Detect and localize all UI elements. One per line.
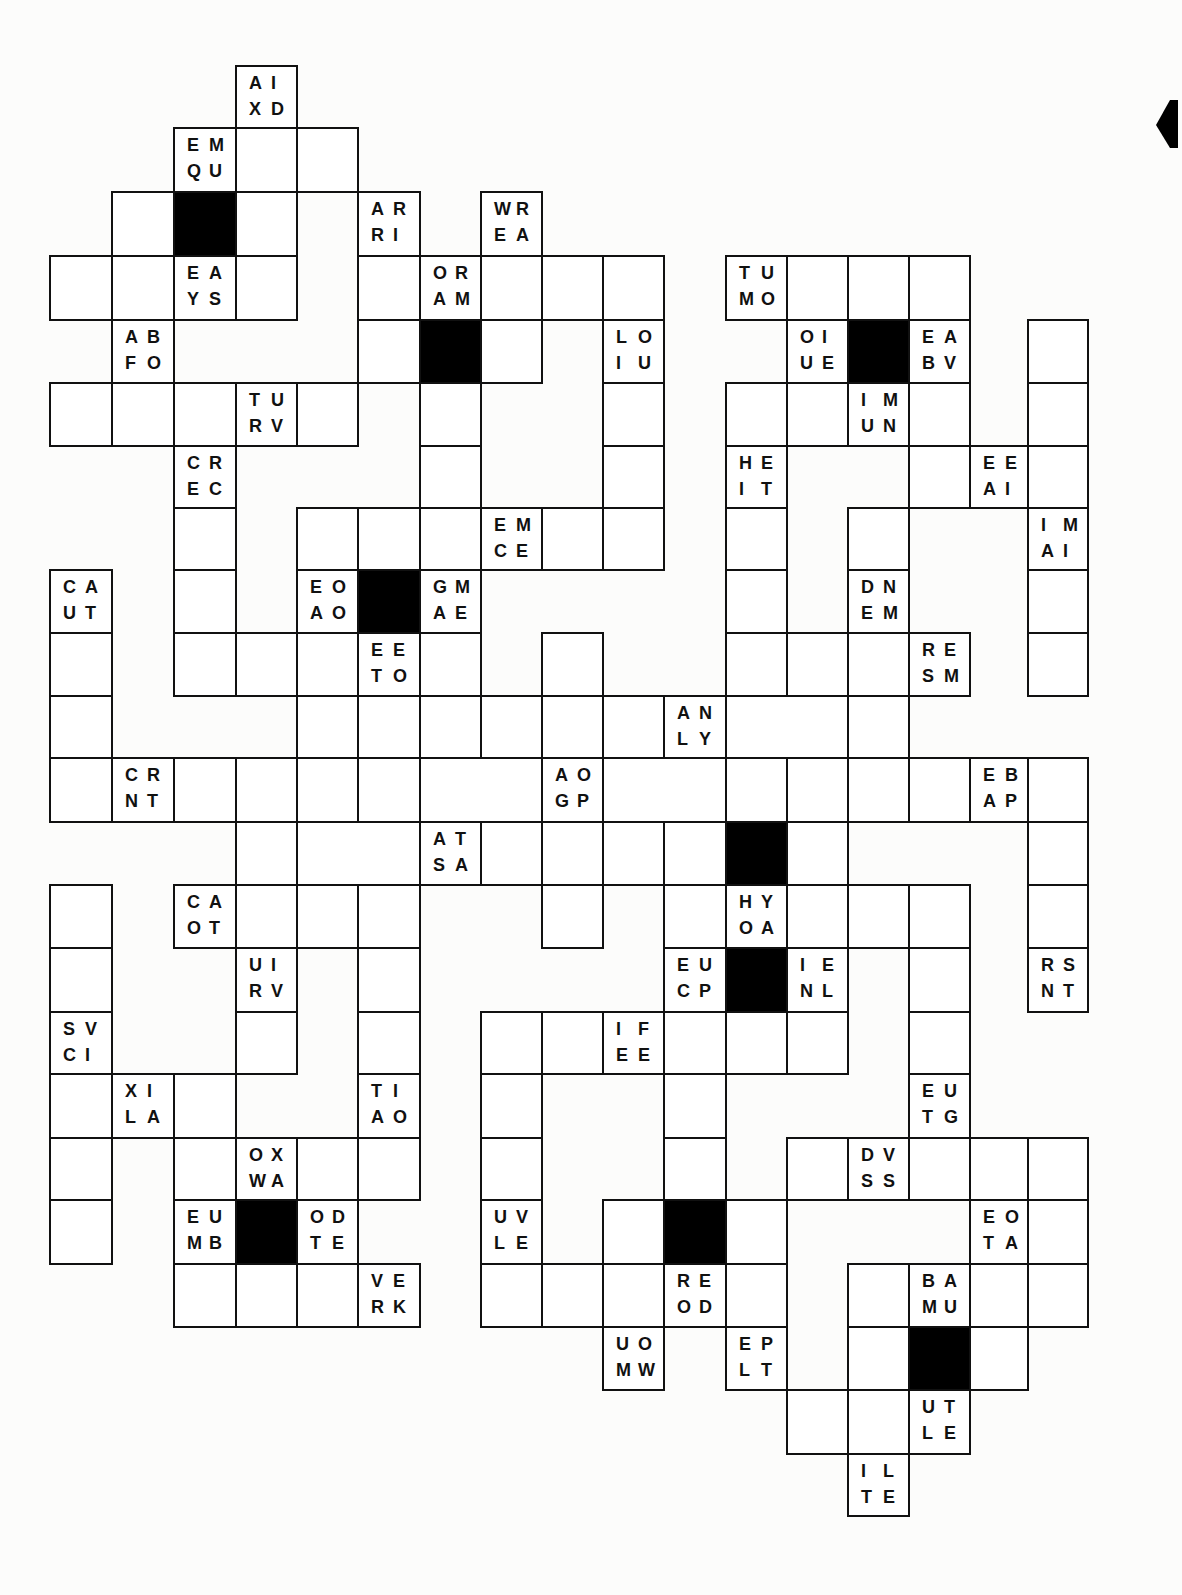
lettered-square[interactable]: ILTE [847,1453,910,1517]
empty-square[interactable] [602,1263,665,1328]
empty-square[interactable] [296,632,359,697]
empty-square[interactable] [235,127,298,193]
lettered-square[interactable]: EPLT [725,1326,788,1391]
empty-square[interactable] [541,821,604,886]
lettered-square[interactable]: EABV [908,319,971,384]
empty-square[interactable] [357,1011,421,1075]
lettered-square[interactable]: VERK [357,1263,421,1328]
empty-square[interactable] [1027,445,1089,509]
empty-square[interactable] [908,947,971,1013]
empty-square[interactable] [908,445,971,509]
empty-square[interactable] [357,884,421,949]
empty-square[interactable] [49,632,113,697]
empty-square[interactable] [725,1199,788,1265]
lettered-square[interactable]: GMAE [419,569,482,634]
empty-square[interactable] [49,884,113,949]
empty-square[interactable] [847,884,910,949]
lettered-square[interactable]: UVLE [480,1199,543,1265]
empty-square[interactable] [173,1263,237,1328]
empty-square[interactable] [847,255,910,321]
lettered-square[interactable]: ODTE [296,1199,359,1265]
empty-square[interactable] [786,884,849,949]
empty-square[interactable] [296,757,359,823]
lettered-square[interactable]: IENL [786,947,849,1013]
empty-square[interactable] [49,255,113,321]
empty-square[interactable] [296,884,359,949]
empty-square[interactable] [1027,884,1089,949]
empty-square[interactable] [786,632,849,697]
lettered-square[interactable]: IMUN [847,382,910,447]
empty-square[interactable] [908,255,971,321]
empty-square[interactable] [49,382,113,447]
empty-square[interactable] [1027,1199,1089,1265]
empty-square[interactable] [49,757,113,823]
empty-square[interactable] [663,884,727,949]
empty-square[interactable] [725,632,788,697]
empty-square[interactable] [847,695,910,759]
empty-square[interactable] [786,1011,849,1075]
empty-square[interactable] [847,1389,910,1455]
lettered-square[interactable]: EMCE [480,507,543,571]
empty-square[interactable] [173,569,237,634]
lettered-square[interactable]: UIRV [235,947,298,1013]
empty-square[interactable] [235,632,298,697]
lettered-square[interactable]: CREC [173,445,237,509]
lettered-square[interactable]: LOIU [602,319,665,384]
empty-square[interactable] [1027,319,1089,384]
lettered-square[interactable]: EUCP [663,947,727,1013]
lettered-square[interactable]: EETO [357,632,421,697]
empty-square[interactable] [1027,821,1089,886]
lettered-square[interactable]: EBAP [969,757,1029,823]
empty-square[interactable] [786,757,849,823]
empty-square[interactable] [49,1073,113,1139]
empty-square[interactable] [1027,382,1089,447]
empty-square[interactable] [1027,1137,1089,1201]
lettered-square[interactable]: ARRI [357,191,421,257]
lettered-square[interactable]: ORAM [419,255,482,321]
empty-square[interactable] [49,695,113,759]
empty-square[interactable] [725,507,788,571]
empty-square[interactable] [541,1263,604,1328]
empty-square[interactable] [173,632,237,697]
lettered-square[interactable]: TUMO [725,255,788,321]
empty-square[interactable] [296,695,359,759]
empty-square[interactable] [908,884,971,949]
empty-square[interactable] [480,255,543,321]
lettered-square[interactable]: CAOT [173,884,237,949]
lettered-square[interactable]: EUTG [908,1073,971,1139]
lettered-square[interactable]: DNEM [847,569,910,634]
empty-square[interactable] [480,1137,543,1201]
empty-square[interactable] [602,1199,665,1265]
empty-square[interactable] [419,507,482,571]
empty-square[interactable] [602,382,665,447]
empty-square[interactable] [663,1011,727,1075]
empty-square[interactable] [786,1137,849,1201]
empty-square[interactable] [725,695,849,759]
empty-square[interactable] [725,569,788,634]
lettered-square[interactable]: RESM [908,632,971,697]
empty-square[interactable] [296,1137,359,1201]
empty-square[interactable] [357,319,421,384]
lettered-square[interactable]: ATSA [419,821,482,886]
lettered-square[interactable]: XILA [111,1073,175,1139]
empty-square[interactable] [296,507,359,571]
empty-square[interactable] [541,255,604,321]
empty-square[interactable] [296,382,359,447]
lettered-square[interactable]: IFEE [602,1011,665,1075]
empty-square[interactable] [663,821,727,886]
empty-square[interactable] [419,445,482,509]
empty-square[interactable] [602,821,665,886]
empty-square[interactable] [541,695,604,759]
empty-square[interactable] [296,1263,359,1328]
empty-square[interactable] [173,1137,237,1201]
empty-square[interactable] [357,947,421,1013]
empty-square[interactable] [663,1073,727,1139]
empty-square[interactable] [602,255,665,321]
empty-square[interactable] [480,695,543,759]
empty-square[interactable] [111,191,175,257]
empty-square[interactable] [480,1011,543,1075]
lettered-square[interactable]: TIAO [357,1073,421,1139]
empty-square[interactable] [480,1073,543,1139]
empty-square[interactable] [173,382,237,447]
lettered-square[interactable]: OIUE [786,319,849,384]
